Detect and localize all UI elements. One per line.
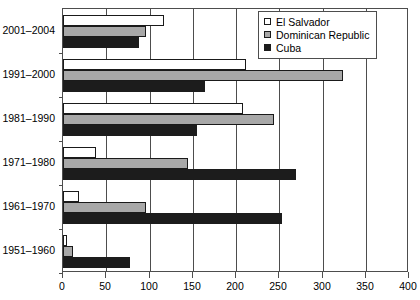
legend-label: Cuba — [276, 42, 301, 54]
bar-cuba-1951-1960 — [63, 257, 130, 268]
bar-dominican-republic-1971-1980 — [63, 158, 188, 169]
x-axis: 050100150200250300350400 — [62, 272, 408, 300]
legend-item-el-salvador: El Salvador — [264, 15, 369, 28]
x-axis-tick-label: 300 — [313, 280, 331, 292]
bar-cuba-1991-2000 — [63, 81, 205, 92]
y-axis-label-1991-2000: 1991–2000 — [2, 69, 55, 80]
gray-square-icon — [264, 31, 271, 38]
bar-dominican-republic-2001-2004 — [63, 26, 146, 37]
bar-el-salvador-1981-1990 — [63, 103, 243, 114]
x-axis-tick-label: 0 — [59, 280, 65, 292]
x-axis-tick — [192, 272, 193, 278]
bar-el-salvador-2001-2004 — [63, 15, 164, 26]
category-band — [63, 185, 407, 229]
x-axis-tick — [322, 272, 323, 278]
y-axis-category-labels: 2001–20041991–20001981–19901971–19801961… — [0, 8, 58, 272]
x-axis-tick — [278, 272, 279, 278]
x-axis-tick-label: 250 — [269, 280, 287, 292]
bar-el-salvador-1961-1970 — [63, 191, 79, 202]
bar-el-salvador-1971-1980 — [63, 147, 96, 158]
bar-el-salvador-1991-2000 — [63, 59, 246, 70]
x-axis-tick — [62, 272, 63, 278]
legend-item-dominican-republic: Dominican Republic — [264, 28, 369, 41]
x-axis-tick — [365, 272, 366, 278]
bar-cuba-1961-1970 — [63, 213, 282, 224]
y-axis-label-1981-1990: 1981–1990 — [2, 113, 55, 124]
x-axis-tick-label: 350 — [356, 280, 374, 292]
y-axis-label-2001-2004: 2001–2004 — [2, 25, 55, 36]
x-axis-tick — [149, 272, 150, 278]
x-axis-tick-label: 200 — [226, 280, 244, 292]
x-axis-tick-label: 100 — [140, 280, 158, 292]
bar-cuba-2001-2004 — [63, 37, 139, 48]
legend-label: Dominican Republic — [276, 29, 369, 41]
x-axis-tick — [235, 272, 236, 278]
bar-dominican-republic-1961-1970 — [63, 202, 146, 213]
x-axis-tick — [105, 272, 106, 278]
category-band — [63, 53, 407, 97]
legend-label: El Salvador — [276, 16, 330, 28]
legend-item-cuba: Cuba — [264, 41, 369, 54]
chart-legend: El SalvadorDominican RepublicCuba — [258, 11, 377, 59]
bar-dominican-republic-1951-1960 — [63, 246, 73, 257]
x-axis-tick-label: 150 — [183, 280, 201, 292]
y-axis-label-1951-1960: 1951–1960 — [2, 245, 55, 256]
bar-dominican-republic-1991-2000 — [63, 70, 343, 81]
horizontal-bar-chart: 2001–20041991–20001981–19901971–19801961… — [0, 0, 420, 300]
y-axis-label-1961-1970: 1961–1970 — [2, 201, 55, 212]
category-band — [63, 229, 407, 273]
x-axis-tick-label: 400 — [399, 280, 417, 292]
white-square-icon — [264, 18, 271, 25]
x-axis-tick — [408, 272, 409, 278]
bar-dominican-republic-1981-1990 — [63, 114, 274, 125]
bar-cuba-1981-1990 — [63, 125, 197, 136]
bar-el-salvador-1951-1960 — [63, 235, 67, 246]
y-axis-label-1971-1980: 1971–1980 — [2, 157, 55, 168]
category-band — [63, 141, 407, 185]
x-axis-tick-label: 50 — [99, 280, 111, 292]
black-square-icon — [264, 44, 271, 51]
category-band — [63, 97, 407, 141]
bar-cuba-1971-1980 — [63, 169, 296, 180]
